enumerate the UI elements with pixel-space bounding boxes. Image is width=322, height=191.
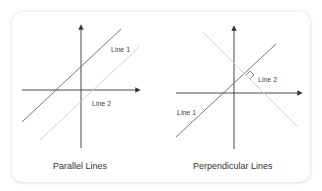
line-1-label: Line 1 bbox=[111, 46, 130, 53]
parallel-caption: Parallel Lines bbox=[53, 161, 107, 171]
line-1-label: Line 1 bbox=[177, 109, 196, 116]
line-1 bbox=[22, 29, 121, 122]
diagram-canvas: Line 1 Line 2 Line 2 Line 1 bbox=[0, 0, 322, 191]
line-2-label: Line 2 bbox=[92, 100, 111, 107]
perpendicular-caption: Perpendicular Lines bbox=[193, 161, 273, 171]
line-2 bbox=[40, 47, 139, 140]
right-angle-marker bbox=[246, 71, 254, 79]
perpendicular-lines-figure: Line 2 Line 1 bbox=[176, 28, 300, 149]
line-2-label: Line 2 bbox=[258, 76, 277, 83]
parallel-lines-figure: Line 1 Line 2 bbox=[22, 27, 139, 148]
